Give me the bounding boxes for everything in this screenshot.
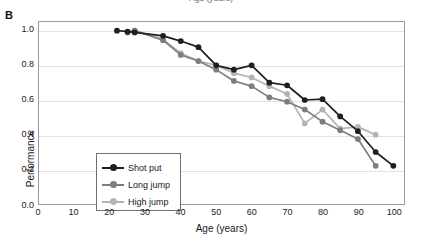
data-point	[160, 33, 166, 39]
x-tick-label: 20	[94, 207, 124, 218]
series-high-jump	[125, 28, 379, 138]
data-point	[213, 62, 219, 68]
data-point	[114, 28, 120, 34]
data-point	[266, 95, 272, 101]
data-point	[231, 78, 237, 84]
series-long-jump	[125, 28, 379, 169]
data-point	[196, 58, 202, 64]
data-point	[125, 29, 131, 35]
data-point	[302, 107, 308, 113]
data-point	[373, 149, 379, 155]
legend: Shot put Long jump High jump	[96, 153, 181, 211]
cropped-upper-panel-axis-title: Age (years)	[0, 0, 422, 9]
y-tick-label: 0.8	[8, 60, 34, 69]
data-point	[249, 83, 255, 89]
data-point	[231, 67, 237, 73]
data-point	[320, 119, 326, 125]
plot-area: Shot put Long jump High jump	[38, 21, 405, 205]
data-point	[373, 132, 379, 138]
cropped-axis-title-text: Age (years)	[0, 0, 422, 3]
series-line	[128, 31, 376, 135]
data-point	[390, 163, 396, 169]
x-axis-title: Age (years)	[38, 223, 405, 234]
legend-marker-high-jump-icon	[102, 196, 124, 207]
legend-label-high-jump: High jump	[128, 197, 169, 207]
data-point	[178, 52, 184, 58]
legend-marker-shot-put-icon	[102, 162, 124, 173]
data-point	[320, 107, 326, 113]
legend-item-long-jump: Long jump	[97, 176, 180, 193]
y-tick-label: 0.6	[8, 95, 34, 104]
x-tick-label: 70	[272, 207, 302, 218]
legend-label-shot-put: Shot put	[128, 163, 162, 173]
data-point	[302, 97, 308, 103]
data-point	[302, 121, 308, 127]
legend-item-shot-put: Shot put	[97, 159, 180, 176]
y-axis-tick-labels: 0.00.20.40.60.81.0	[4, 21, 34, 205]
x-tick-label: 100	[379, 207, 409, 218]
x-tick-label: 80	[308, 207, 338, 218]
panel-label: B	[5, 9, 13, 21]
data-point	[132, 30, 138, 36]
y-tick-label: 0.4	[8, 130, 34, 139]
x-axis-tick-labels: 0102030405060708090100	[38, 207, 405, 221]
data-point	[373, 163, 379, 169]
y-tick-label: 0.2	[8, 165, 34, 174]
legend-marker-long-jump-icon	[102, 179, 124, 190]
data-point	[266, 80, 272, 86]
data-point	[355, 128, 361, 134]
data-point	[249, 62, 255, 68]
data-point	[337, 114, 343, 120]
x-tick-label: 40	[166, 207, 196, 218]
data-point	[284, 99, 290, 105]
x-tick-label: 0	[23, 207, 53, 218]
data-point	[284, 91, 290, 97]
x-tick-label: 10	[59, 207, 89, 218]
data-point	[337, 127, 343, 133]
figure-panel-b: Age (years) B Performance 0.00.20.40.60.…	[0, 0, 422, 249]
data-point	[178, 38, 184, 44]
data-point	[355, 136, 361, 142]
data-point	[196, 44, 202, 50]
series-plot-layer	[39, 22, 404, 204]
x-tick-label: 30	[130, 207, 160, 218]
x-tick-label: 50	[201, 207, 231, 218]
data-point	[249, 75, 255, 81]
series-line	[128, 31, 376, 166]
data-point	[320, 96, 326, 102]
legend-label-long-jump: Long jump	[128, 180, 170, 190]
y-tick-label: 1.0	[8, 25, 34, 34]
x-tick-label: 90	[344, 207, 374, 218]
series-line	[117, 31, 393, 166]
x-tick-label: 60	[237, 207, 267, 218]
series-shot-put	[114, 28, 396, 169]
data-point	[284, 82, 290, 88]
